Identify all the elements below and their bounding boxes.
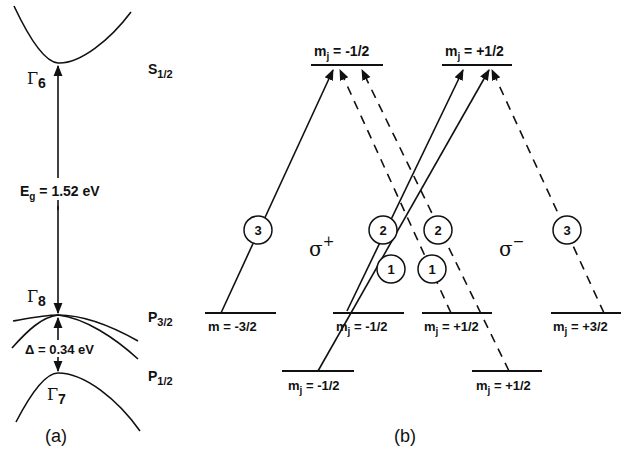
sigma-plus-label: σ+: [309, 233, 334, 261]
svg-text:1: 1: [387, 262, 394, 277]
s-half-state-label: S1/2: [148, 61, 173, 80]
weight-circle-sm-3: 3: [553, 216, 581, 244]
sigma-plus-transition-m3half: [221, 70, 333, 313]
p-half-state-label: P1/2: [148, 368, 173, 387]
optical-selection-rules-figure: Eg = 1.52 eV Δ = 0.34 eV Γ6 Γ8 Γ7 S1/2 P…: [0, 0, 630, 458]
split-off-band-curve: [16, 373, 140, 431]
gamma7-label: Γ7: [47, 385, 66, 407]
label-p12-plus-half: mj = +1/2: [476, 378, 531, 396]
conduction-band-curve: [14, 6, 131, 63]
sigma-minus-transition-p3half: [492, 70, 604, 313]
svg-text:1: 1: [428, 262, 435, 277]
weight-circle-sm-1: 1: [418, 255, 446, 283]
weight-circle-sp-1: 1: [377, 255, 405, 283]
p-three-half-state-label: P3/2: [148, 309, 173, 328]
gamma8-label: Γ8: [27, 287, 46, 309]
weight-circle-sp-2: 2: [369, 216, 397, 244]
sigma-minus-label: σ−: [499, 233, 524, 261]
panel-a-caption: (a): [45, 426, 67, 446]
panel-a-band-diagram: Eg = 1.52 eV Δ = 0.34 eV Γ6 Γ8 Γ7 S1/2 P…: [12, 6, 173, 446]
svg-text:3: 3: [254, 223, 261, 238]
svg-text:2: 2: [434, 223, 441, 238]
svg-text:3: 3: [563, 223, 570, 238]
panel-b-transition-diagram: 3 2 1 2 1 3 σ+ σ− mj = -1/2 mj = +1/2 m …: [205, 43, 621, 446]
sigma-plus-transition-p32-mhalf: [347, 70, 463, 311]
label-p12-minus-half: mj = -1/2: [288, 378, 340, 396]
label-p32-plus-half: mj = +1/2: [424, 319, 479, 337]
label-s-plus-half: mj = +1/2: [445, 43, 504, 62]
svg-text:2: 2: [379, 223, 386, 238]
weight-circle-sp-3: 3: [244, 216, 272, 244]
label-s-minus-half: mj = -1/2: [314, 43, 370, 62]
panel-b-caption: (b): [394, 426, 416, 446]
gamma6-label: Γ6: [27, 69, 46, 91]
label-p32-minus-half: mj = -1/2: [336, 319, 388, 337]
split-off-energy-label: Δ = 0.34 eV: [25, 342, 94, 357]
weight-circle-sm-2: 2: [424, 216, 452, 244]
label-p32-plus-3half: mj = +3/2: [553, 319, 608, 337]
label-p32-minus-3half: m = -3/2: [208, 319, 257, 334]
